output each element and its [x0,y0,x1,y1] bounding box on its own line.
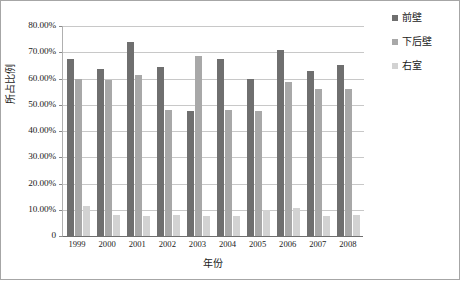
bar [157,67,164,236]
x-axis-tick-label: 2001 [122,240,152,254]
x-axis-tick-label: 2004 [212,240,242,254]
bar [165,110,172,236]
bar-group [213,26,243,236]
bar [247,79,254,237]
legend-swatch-icon [392,39,398,45]
y-axis-tick-label: 40.00% [28,126,56,135]
bar [127,42,134,236]
y-axis-tick-label: 10.00% [28,205,56,214]
bar [293,208,300,236]
y-axis-tick-label: 50.00% [28,100,56,109]
bar [75,79,82,237]
bar [217,59,224,236]
bar-group [244,26,274,236]
x-axis-tick-label: 2005 [243,240,273,254]
bar [263,210,270,236]
bar [315,89,322,236]
x-axis-tick-label: 2003 [182,240,212,254]
bar [323,216,330,236]
legend-item[interactable]: 下后壁 [392,36,458,47]
legend-label: 下后壁 [402,37,432,47]
x-axis-tick-label: 2008 [333,240,363,254]
bar [135,75,142,236]
y-axis-labels: 80.00%70.00%60.00%50.00%40.00%30.00%20.0… [0,0,60,281]
bar [105,80,112,236]
bar [203,216,210,236]
legend-item[interactable]: 右室 [392,60,458,71]
legend-label: 前壁 [402,13,422,23]
bar-group [334,26,364,236]
bar-group [123,26,153,236]
bar [113,215,120,236]
bar [277,50,284,236]
x-axis-tick-label: 1999 [62,240,92,254]
y-axis-tick-label: 20.00% [28,179,56,188]
bar [195,56,202,236]
bar [225,110,232,236]
bar-group [304,26,334,236]
y-axis-tick-label: 60.00% [28,74,56,83]
bar [285,82,292,236]
plot-area [62,26,363,237]
x-axis-tick-label: 2000 [92,240,122,254]
bar-group [183,26,213,236]
bar [345,89,352,236]
x-axis-tick-label: 2002 [152,240,182,254]
bar-group [274,26,304,236]
x-axis-labels: 1999200020012002200320042005200620072008 [62,240,363,254]
bar [233,216,240,236]
legend-swatch-icon [392,15,398,21]
y-axis-tick-label: 0 [52,231,57,240]
bar-groups [63,26,364,236]
bar-group [93,26,123,236]
bar [83,206,90,236]
chart-container: 所占比例 80.00%70.00%60.00%50.00%40.00%30.00… [0,0,461,281]
y-axis-tick-label: 70.00% [28,47,56,56]
bar [353,215,360,236]
bar-group [153,26,183,236]
bar [97,69,104,236]
bar [255,111,262,236]
legend-item[interactable]: 前壁 [392,12,458,23]
y-axis-tick-label: 30.00% [28,152,56,161]
bar [173,215,180,236]
bar-group [63,26,93,236]
chart-legend: 前壁下后壁右室 [392,12,458,84]
x-axis-tick-label: 2007 [303,240,333,254]
x-axis-title: 年份 [62,259,363,269]
y-axis-tick-label: 80.00% [28,21,56,30]
bar [67,59,74,236]
bar [187,111,194,236]
bar [337,65,344,236]
legend-swatch-icon [392,63,398,69]
bar [143,216,150,236]
x-axis-tick-label: 2006 [273,240,303,254]
bar [307,71,314,236]
legend-label: 右室 [402,61,422,71]
